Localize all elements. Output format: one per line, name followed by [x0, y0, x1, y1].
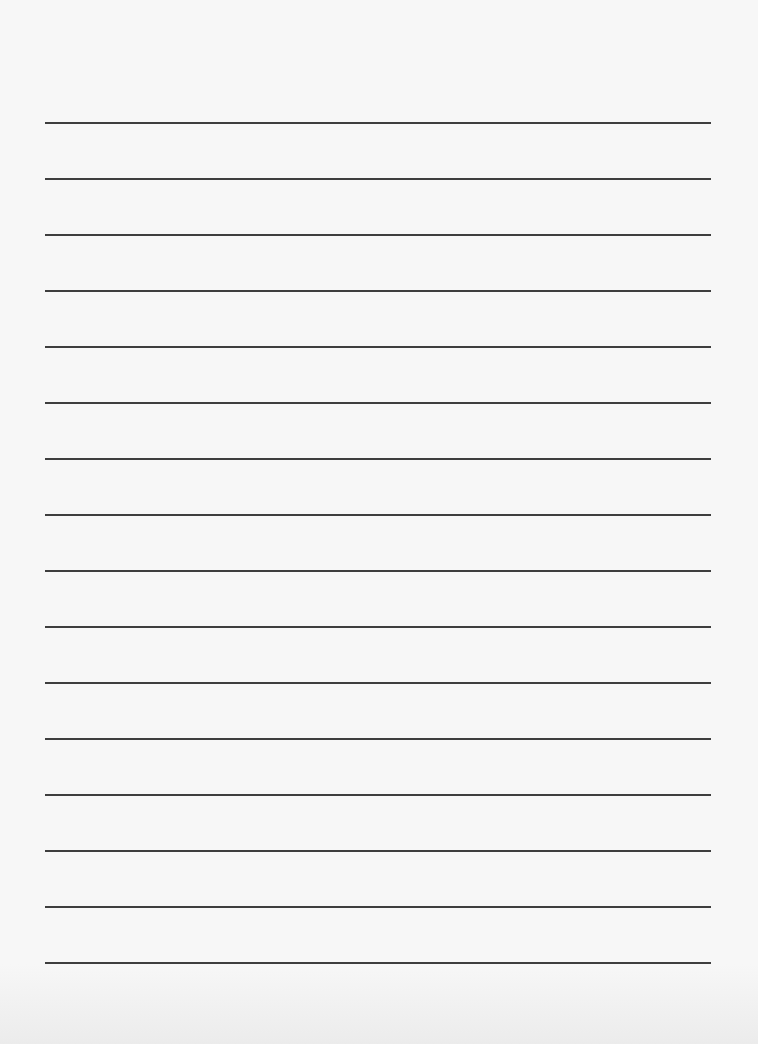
ruled-line [45, 234, 711, 236]
ruled-line [45, 626, 711, 628]
lined-paper-sheet [0, 0, 758, 1044]
ruled-line [45, 178, 711, 180]
ruled-line [45, 906, 711, 908]
ruled-line [45, 402, 711, 404]
ruled-line [45, 738, 711, 740]
ruled-line [45, 514, 711, 516]
ruled-line [45, 458, 711, 460]
ruled-line [45, 794, 711, 796]
ruled-line [45, 682, 711, 684]
ruled-line [45, 346, 711, 348]
ruled-line [45, 290, 711, 292]
ruled-line [45, 850, 711, 852]
ruled-line [45, 962, 711, 964]
ruled-line [45, 122, 711, 124]
ruled-line [45, 570, 711, 572]
